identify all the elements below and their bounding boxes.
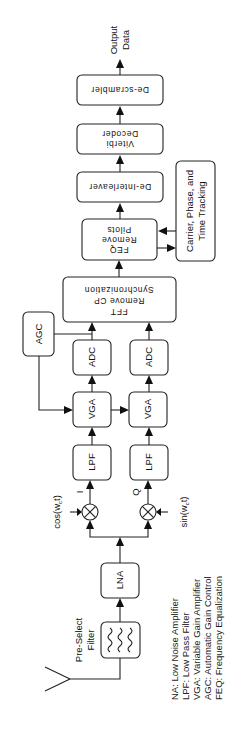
svg-text:I: I <box>74 491 85 494</box>
i-label: I <box>74 491 85 494</box>
filter-label: Pre-Select Filter <box>73 617 96 662</box>
svg-text:NA: Low Noise Amplifier: NA: Low Noise Amplifier <box>169 598 180 700</box>
legend: NA: Low Noise Amplifier LPF: Low Pass Fi… <box>169 576 224 700</box>
lpf-q-block: LPF <box>130 445 168 480</box>
svg-text:Output: Output <box>108 25 119 54</box>
svg-text:VGA: VGA <box>142 398 153 419</box>
adc-q-block: ADC <box>130 340 168 375</box>
svg-text:Filter: Filter <box>85 629 96 650</box>
q-label: Q <box>130 488 141 495</box>
svg-text:VGA: VGA <box>86 398 97 419</box>
svg-text:VGA: Variable Gain Amplifier: VGA: Variable Gain Amplifier <box>191 579 202 700</box>
lna-block: LNA <box>101 563 139 598</box>
vga-i-block: VGA <box>73 392 111 427</box>
svg-text:ADC: ADC <box>86 347 97 367</box>
receiver-diagram: Output Data De-scrambler Viterbi Decoder… <box>0 0 235 731</box>
svg-text:De-Interleaver: De-Interleaver <box>89 182 151 192</box>
svg-text:Time Tracking: Time Tracking <box>196 181 207 240</box>
svg-text:Q: Q <box>130 488 141 495</box>
mixer-i-icon <box>82 504 98 520</box>
svg-text:Data: Data <box>120 29 131 50</box>
svg-text:Remove CP: Remove CP <box>93 296 144 306</box>
mixer-q-icon <box>140 504 156 520</box>
svg-text:FEQ: FEQ <box>109 245 128 255</box>
tracking-block: Carrier, Phase, and Time Tracking <box>176 161 215 261</box>
descrambler-block: De-scrambler <box>77 75 163 105</box>
svg-text:FEQ: Frequency Equalization: FEQ: Frequency Equalization <box>213 576 224 700</box>
svg-text:LNA: LNA <box>114 570 125 589</box>
feq-remove-pilots-block: FEQ Remove Pilots <box>82 219 157 260</box>
svg-text:FFT: FFT <box>110 307 127 317</box>
output-data-label: Output Data <box>108 25 131 54</box>
svg-text:Viterbi: Viterbi <box>106 139 134 149</box>
svg-text:De-scrambler: De-scrambler <box>91 85 149 95</box>
svg-text:Synchronization: Synchronization <box>84 285 153 295</box>
sin-label: sin(wct) <box>178 497 190 528</box>
svg-text:AGC: Automatic Gain Control: AGC: Automatic Gain Control <box>202 576 213 700</box>
svg-text:Carrier, Phase, and: Carrier, Phase, and <box>184 170 195 252</box>
vga-q-block: VGA <box>129 392 167 427</box>
agc-block: AGC <box>23 312 54 356</box>
svg-text:AGC: AGC <box>33 324 44 345</box>
cos-label: cos(wct) <box>51 495 63 529</box>
pre-select-filter-block <box>101 622 140 658</box>
lpf-i-block: LPF <box>73 445 111 480</box>
svg-text:sin(wct): sin(wct) <box>178 497 190 528</box>
svg-text:LPF: Low Pass Filter: LPF: Low Pass Filter <box>180 612 191 700</box>
adc-i-block: ADC <box>73 340 111 375</box>
synchronization-fft-block: FFT Remove CP Synchronization <box>63 277 176 322</box>
svg-text:LPF: LPF <box>143 453 154 471</box>
svg-text:cos(wct): cos(wct) <box>51 495 63 529</box>
viterbi-decoder-block: Viterbi Decoder <box>77 124 163 154</box>
svg-text:LPF: LPF <box>86 453 97 471</box>
svg-text:Decoder: Decoder <box>102 129 138 139</box>
svg-text:ADC: ADC <box>143 347 154 367</box>
deinterleaver-block: De-Interleaver <box>77 172 163 202</box>
svg-text:Pre-Select: Pre-Select <box>73 617 84 662</box>
svg-text:Remove: Remove <box>101 235 136 245</box>
svg-text:Pilots: Pilots <box>107 225 131 235</box>
